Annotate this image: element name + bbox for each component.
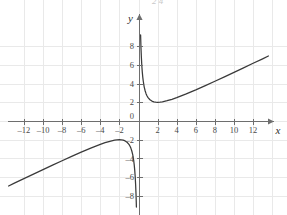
- x-tick--6: –6: [76, 125, 86, 135]
- y-axis-label: y: [127, 12, 133, 24]
- x-tick--10: –10: [36, 125, 50, 135]
- x-tick--4: –4: [95, 125, 105, 135]
- y-tick--8: –8: [125, 191, 135, 201]
- x-axis-label: x: [275, 124, 281, 136]
- y-tick--2: –2: [125, 135, 135, 145]
- x-tick-4: 4: [175, 125, 180, 135]
- y-tick-6: 6: [130, 60, 134, 70]
- origin-label: 0: [130, 111, 134, 121]
- graph-figure: –12–10–8–6–4–224681012–8–6–4–22468 x y 0…: [0, 0, 287, 215]
- y-tick--6: –6: [125, 172, 135, 182]
- x-tick-8: 8: [213, 125, 217, 135]
- y-tick-2: 2: [130, 97, 134, 107]
- x-tick-2: 2: [155, 125, 159, 135]
- x-tick-6: 6: [194, 125, 198, 135]
- x-tick--8: –8: [57, 125, 67, 135]
- coordinate-plane: –12–10–8–6–4–224681012–8–6–4–22468 x y 0…: [0, 0, 287, 215]
- x-tick--12: –12: [17, 125, 31, 135]
- y-tick--4: –4: [125, 154, 135, 164]
- y-tick-8: 8: [130, 41, 134, 51]
- cutoff-formula-fragment: 2 4: [152, 0, 164, 6]
- grid-lines: [0, 0, 287, 215]
- x-tick-12: 12: [249, 125, 258, 135]
- x-tick-10: 10: [230, 125, 239, 135]
- x-tick--2: –2: [114, 125, 124, 135]
- y-tick-4: 4: [130, 79, 135, 89]
